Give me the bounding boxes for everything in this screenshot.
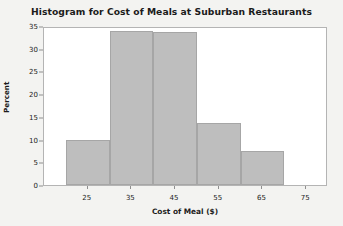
y-tick-label: 25 [29,68,38,76]
x-tick-mark [305,186,306,189]
histogram-bar [197,123,241,185]
histogram-bar [66,140,110,185]
bars-layer [44,28,326,185]
y-axis-title: Percent [2,82,11,113]
y-axis: Percent 05101520253035 [0,27,43,187]
histogram-bar [241,151,285,185]
x-tick-label: 75 [301,194,310,202]
y-tick-label: 35 [29,23,38,31]
chart-title: Histogram for Cost of Meals at Suburban … [0,6,343,17]
x-tick-mark [174,186,175,189]
x-tick-mark [218,186,219,189]
y-tick-label: 10 [29,137,38,145]
y-tick-label: 5 [34,159,38,167]
x-tick-label: 65 [257,194,266,202]
x-tick-label: 35 [126,194,135,202]
x-tick-mark [261,186,262,189]
y-tick-label: 15 [29,114,38,122]
plot-area [43,27,327,186]
x-tick-mark [87,186,88,189]
x-tick-label: 55 [213,194,222,202]
histogram-bar [153,32,197,185]
x-tick-label: 45 [170,194,179,202]
histogram-chart: Histogram for Cost of Meals at Suburban … [0,0,343,226]
y-tick-label: 0 [34,182,38,190]
x-tick-label: 25 [82,194,91,202]
x-axis: 253545556575 Cost of Meal ($) [43,186,327,226]
y-tick-label: 30 [29,46,38,54]
y-tick-label: 20 [29,91,38,99]
x-tick-mark [130,186,131,189]
histogram-bar [110,31,154,185]
x-axis-title: Cost of Meal ($) [43,207,327,216]
